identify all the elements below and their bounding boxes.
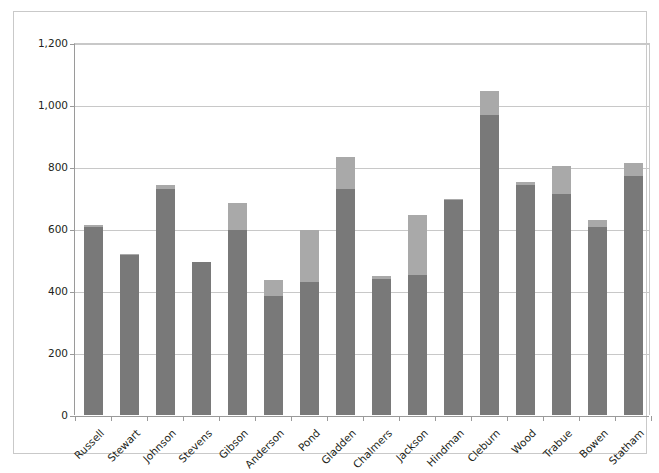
y-tick-mark	[70, 168, 75, 169]
bar-russell	[84, 225, 103, 415]
bar-segment-lower	[372, 279, 391, 415]
bar-segment-lower	[588, 227, 607, 415]
bar-segment-lower	[624, 176, 643, 415]
bar-statham	[624, 163, 643, 415]
bars-group	[75, 44, 649, 415]
bar-johnson	[156, 185, 175, 415]
y-tick-mark	[70, 44, 75, 45]
bar-pond	[300, 230, 319, 415]
y-tick-mark	[70, 292, 75, 293]
x-tick-mark	[183, 416, 184, 421]
x-tick-mark	[219, 416, 220, 421]
bar-segment-lower	[84, 227, 103, 415]
x-tick-mark	[327, 416, 328, 421]
bar-cleburn	[480, 91, 499, 415]
bar-gladden	[336, 157, 355, 415]
x-tick-mark	[111, 416, 112, 421]
y-axis-tick-label: 800	[20, 162, 68, 172]
bar-segment-upper	[300, 230, 319, 282]
bar-segment-upper	[408, 215, 427, 275]
bar-stewart	[120, 254, 139, 415]
bar-gibson	[228, 203, 247, 415]
x-tick-mark	[255, 416, 256, 421]
y-axis-tick-label: 200	[20, 348, 68, 358]
bar-segment-lower	[192, 262, 211, 415]
bar-bowen	[588, 220, 607, 415]
bar-segment-lower	[228, 230, 247, 415]
bar-segment-lower	[408, 275, 427, 415]
x-tick-mark	[363, 416, 364, 421]
x-tick-mark	[507, 416, 508, 421]
bar-segment-lower	[264, 296, 283, 415]
x-tick-mark	[291, 416, 292, 421]
bar-segment-lower	[300, 282, 319, 415]
y-axis-tick-label: 1,200	[20, 38, 68, 48]
bar-hindman	[444, 199, 463, 415]
x-tick-mark	[615, 416, 616, 421]
x-tick-mark	[75, 416, 76, 421]
bar-wood	[516, 182, 535, 415]
x-tick-mark	[147, 416, 148, 421]
bar-segment-lower	[120, 255, 139, 415]
y-tick-mark	[70, 106, 75, 107]
y-axis-tick-label: 0	[20, 410, 68, 420]
x-tick-mark	[435, 416, 436, 421]
bar-segment-lower	[336, 189, 355, 415]
bar-segment-lower	[444, 200, 463, 415]
x-tick-mark	[579, 416, 580, 421]
plot-area	[74, 43, 650, 415]
bar-segment-upper	[480, 91, 499, 115]
gridline-0	[75, 416, 649, 417]
x-tick-mark	[543, 416, 544, 421]
bar-stevens	[192, 262, 211, 415]
bar-trabue	[552, 166, 571, 415]
bar-anderson	[264, 280, 283, 415]
y-axis-tick-label: 1,000	[20, 100, 68, 110]
y-tick-mark	[70, 230, 75, 231]
y-axis-tick-label: 400	[20, 286, 68, 296]
bar-segment-lower	[552, 194, 571, 415]
chart-frame: 02004006008001,0001,200 RussellStewartJo…	[13, 11, 647, 454]
x-tick-mark	[651, 416, 652, 421]
bar-segment-upper	[336, 157, 355, 189]
bar-chalmers	[372, 276, 391, 415]
bar-segment-lower	[156, 189, 175, 415]
bar-jackson	[408, 215, 427, 415]
bar-segment-upper	[552, 166, 571, 194]
bar-segment-upper	[624, 163, 643, 176]
bar-segment-lower	[480, 115, 499, 415]
y-tick-mark	[70, 354, 75, 355]
y-axis-tick-label: 600	[20, 224, 68, 234]
x-tick-mark	[399, 416, 400, 421]
bar-segment-lower	[516, 185, 535, 415]
bar-segment-upper	[264, 280, 283, 296]
bar-segment-upper	[228, 203, 247, 230]
x-tick-mark	[471, 416, 472, 421]
